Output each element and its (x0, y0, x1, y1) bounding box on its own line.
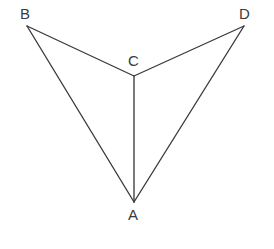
edge-d-a (134, 26, 244, 202)
geometry-figure-canvas: B D C A (0, 0, 274, 249)
vertex-label-b: B (20, 6, 30, 21)
vertex-label-c: C (128, 53, 139, 68)
edge-b-c (27, 26, 134, 76)
edge-c-d (134, 26, 244, 76)
vertex-label-d: D (239, 6, 250, 21)
edge-b-a (27, 26, 134, 202)
vertex-label-a: A (128, 207, 138, 222)
